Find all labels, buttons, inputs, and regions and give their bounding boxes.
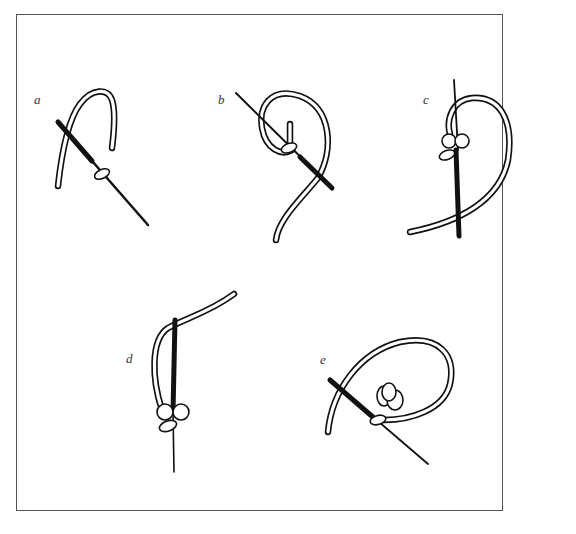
step-b-drawing: [236, 93, 332, 240]
step-label-a: a: [34, 92, 41, 108]
step-d-drawing: [154, 294, 234, 472]
thread-wrap-icon: [157, 404, 173, 420]
step-label-e: e: [320, 352, 326, 368]
stitch-illustration: [0, 0, 576, 534]
step-label-b: b: [218, 92, 225, 108]
step-label-d: d: [126, 351, 133, 367]
step-label-c: c: [423, 92, 429, 108]
step-a-drawing: [58, 91, 148, 225]
step-e-drawing: [328, 340, 451, 464]
thread-wrap-icon: [442, 134, 456, 148]
